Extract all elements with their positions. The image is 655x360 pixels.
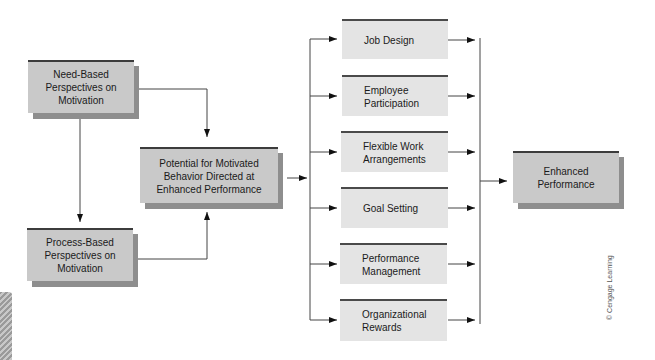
enhanced-performance-box: Enhanced Performance — [513, 151, 619, 203]
method-flexible-work-arrangements: Flexible Work Arrangements — [341, 131, 448, 172]
method-organizational-rewards: Organizational Rewards — [340, 299, 447, 341]
method-label: Employee Participation — [364, 84, 419, 110]
need-based-perspectives-box: Need-Based Perspectives on Motivation — [28, 60, 134, 113]
method-label: Performance Management — [362, 252, 420, 278]
decorative-page-edge — [0, 292, 12, 360]
outcome-label: Enhanced Performance — [537, 165, 594, 191]
copyright-credit: © Cengage Learning — [606, 255, 613, 320]
method-performance-management: Performance Management — [340, 243, 447, 284]
center-label: Potential for Motivated Behavior Directe… — [156, 157, 261, 196]
method-goal-setting: Goal Setting — [341, 187, 448, 228]
process-based-label: Process-Based Perspectives on Motivation — [44, 236, 115, 275]
potential-motivated-behavior-box: Potential for Motivated Behavior Directe… — [140, 147, 278, 203]
method-label: Goal Setting — [363, 202, 418, 215]
process-based-perspectives-box: Process-Based Perspectives on Motivation — [27, 228, 133, 281]
need-based-label: Need-Based Perspectives on Motivation — [45, 68, 116, 107]
method-employee-participation: Employee Participation — [342, 75, 448, 116]
method-label: Flexible Work Arrangements — [363, 140, 426, 166]
method-label: Job Design — [364, 34, 414, 47]
method-label: Organizational Rewards — [362, 308, 426, 334]
method-job-design: Job Design — [342, 19, 448, 59]
